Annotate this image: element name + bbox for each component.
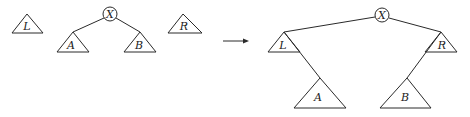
before-state: L X A B R (12, 7, 202, 52)
node-x-after: X (375, 8, 389, 22)
subtree-l-before: L (12, 14, 43, 33)
label-a: A (313, 91, 322, 104)
subtree-r-before: R (168, 14, 202, 33)
subtree-a-before: A (57, 32, 89, 52)
subtree-r-after: R (425, 32, 457, 52)
tree-rotation-diagram: L X A B R X (0, 0, 470, 117)
label-b: B (134, 39, 143, 52)
subtree-l-after: L (268, 32, 300, 52)
label-a: A (66, 39, 75, 52)
label-l: L (22, 20, 30, 33)
subtree-a-after: A (294, 78, 346, 108)
label-r: R (437, 39, 446, 52)
after-state: X L R A B (268, 8, 457, 108)
subtree-b-before: B (124, 32, 156, 52)
label-l: L (278, 39, 286, 52)
label-x: X (105, 8, 115, 21)
subtree-b-after: B (380, 78, 431, 108)
label-b: B (400, 91, 409, 104)
node-x-before: X (73, 7, 140, 32)
label-r: R (179, 20, 188, 33)
label-x: X (377, 9, 387, 22)
arrow-icon (223, 39, 249, 44)
